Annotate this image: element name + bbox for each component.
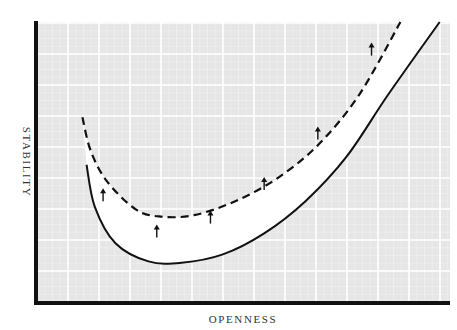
- stability-openness-diagram: OPENNESS STABILITY: [0, 0, 457, 330]
- y-axis-label: STABILITY: [21, 127, 33, 197]
- x-axis-label: OPENNESS: [209, 313, 277, 325]
